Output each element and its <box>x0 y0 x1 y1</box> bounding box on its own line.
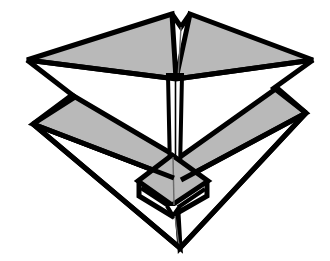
hub-center-crease <box>173 157 174 205</box>
folded-canopy-illustration <box>0 0 330 261</box>
figure-container: Folded Deployable Canopy Structure <box>0 0 330 261</box>
